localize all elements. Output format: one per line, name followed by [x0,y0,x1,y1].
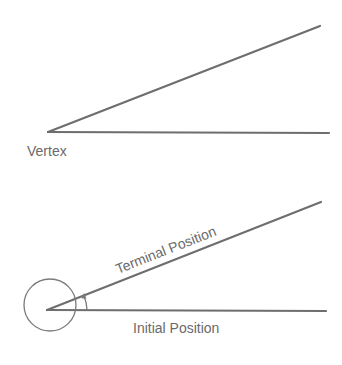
vertex-label: Vertex [27,143,67,159]
initial-ray [47,310,326,311]
angle-diagram: Vertex Terminal Position Initial Positio… [0,0,342,365]
upper-ray [48,26,320,132]
rotation-circle-icon [24,279,76,331]
lower-ray [48,132,329,133]
top-angle-figure: Vertex [27,26,329,159]
terminal-ray [47,202,321,310]
initial-position-label: Initial Position [133,320,219,336]
bottom-angle-figure: Terminal Position Initial Position [24,202,326,336]
